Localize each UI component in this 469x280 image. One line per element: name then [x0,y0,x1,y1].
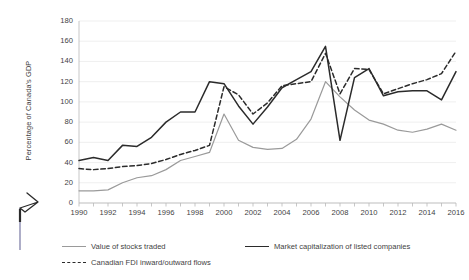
legend-item-fdi-flows[interactable]: Canadian FDI inward/outward flows [62,258,211,267]
legend-label-fdi-flows: Canadian FDI inward/outward flows [91,258,211,267]
legend-item-market-cap[interactable]: Market capitalization of listed companie… [245,242,410,251]
series-line-2 [79,51,456,169]
legend-swatch-dashed-icon [62,262,86,263]
chart-legend: Value of stocks traded Market capitaliza… [0,238,463,278]
legend-swatch-solid-black-icon [245,246,269,247]
series-line-0 [79,82,456,191]
legend-label-stocks-traded: Value of stocks traded [91,242,166,251]
legend-item-stocks-traded[interactable]: Value of stocks traded [62,242,166,251]
legend-label-market-cap: Market capitalization of listed companie… [274,242,410,251]
legend-swatch-solid-gray-icon [62,246,86,247]
